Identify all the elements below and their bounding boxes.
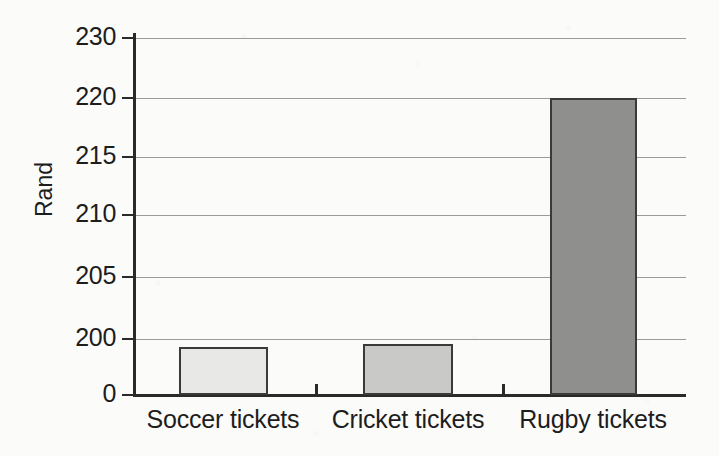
y-axis-title: Rand — [31, 135, 58, 245]
y-tick-label-215: 215 — [8, 141, 116, 170]
x-label-rugby-tickets: Rugby tickets — [483, 405, 703, 434]
y-tick-label-210: 210 — [8, 199, 116, 228]
y-tick-label-230: 230 — [8, 22, 116, 51]
bar-soccer-tickets — [179, 347, 268, 395]
bar-rugby-tickets — [550, 98, 637, 395]
gridline-230 — [136, 38, 686, 39]
y-axis-tick-labels: 2302202152102052000 — [0, 0, 116, 456]
y-tick-label-205: 205 — [8, 261, 116, 290]
bar-cricket-tickets — [363, 344, 453, 395]
bar-chart-figure: 2302202152102052000 Rand Soccer ticketsC… — [0, 0, 719, 456]
y-axis-line — [133, 33, 136, 397]
x-tick-mark-1 — [315, 384, 318, 395]
y-tick-label-220: 220 — [8, 82, 116, 111]
y-tick-label-0: 0 — [8, 379, 116, 408]
x-tick-mark-2 — [502, 384, 505, 395]
y-tick-label-200: 200 — [8, 323, 116, 352]
